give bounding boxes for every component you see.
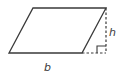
base-label: b	[44, 61, 51, 74]
parallelogram-diagram: h b	[0, 0, 120, 75]
height-label: h	[109, 26, 116, 39]
right-angle-marker	[97, 46, 106, 53]
parallelogram-shape	[9, 8, 106, 53]
